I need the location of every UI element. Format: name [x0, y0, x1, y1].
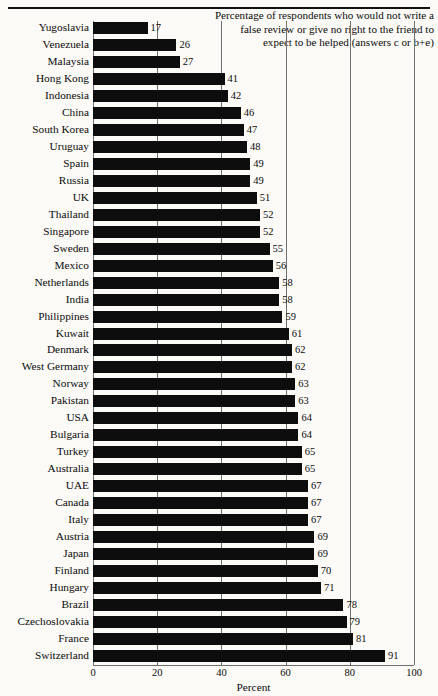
bar: [93, 158, 250, 170]
bar-value-label: 61: [292, 328, 303, 339]
bar-value-label: 67: [311, 514, 322, 525]
bar-value-label: 69: [317, 531, 328, 542]
category-label: Denmark: [47, 344, 89, 355]
bar: [93, 565, 318, 577]
bar: [93, 582, 321, 594]
category-label: Thailand: [49, 209, 89, 220]
x-tick-label-80: 80: [345, 667, 356, 678]
bar-value-label: 51: [260, 192, 271, 203]
bar: [93, 73, 225, 85]
bar: [93, 141, 247, 153]
bar-row: France81: [93, 633, 414, 645]
bar-row: Norway63: [93, 378, 414, 390]
bar-value-label: 67: [311, 498, 322, 509]
bar: [93, 277, 279, 289]
bar: [93, 633, 353, 645]
bar-row: Netherlands58: [93, 277, 414, 289]
bar-value-label: 64: [301, 430, 312, 441]
category-label: Uruguay: [49, 141, 89, 152]
bar-row: Switzerland91: [93, 650, 414, 662]
bar: [93, 446, 302, 458]
category-label: Indonesia: [45, 90, 89, 101]
bar-row: Russia49: [93, 175, 414, 187]
bar-value-label: 58: [282, 277, 293, 288]
bar-value-label: 26: [179, 40, 190, 51]
bar-row: Philippines59: [93, 311, 414, 323]
bar-row: Czechoslovakia79: [93, 616, 414, 628]
bar: [93, 531, 314, 543]
bar: [93, 616, 347, 628]
bar: [93, 463, 302, 475]
bar-value-label: 52: [263, 209, 274, 220]
bar-row: Austria69: [93, 531, 414, 543]
x-axis-ticks: 020406080100: [93, 667, 414, 681]
category-label: Bulgaria: [50, 429, 89, 440]
bar: [93, 650, 385, 662]
bar-row: Denmark62: [93, 344, 414, 356]
bar-value-label: 17: [151, 23, 162, 34]
bar-value-label: 78: [346, 599, 357, 610]
bar: [93, 412, 298, 424]
bar: [93, 361, 292, 373]
category-label: Canada: [55, 497, 89, 508]
x-tick-label-100: 100: [406, 667, 422, 678]
bar-chart-figure: Percentage of respondents who would not …: [0, 0, 438, 696]
bar-row: Thailand52: [93, 209, 414, 221]
bar-row: Bulgaria64: [93, 429, 414, 441]
bar-value-label: 63: [298, 396, 309, 407]
bar-value-label: 81: [356, 633, 367, 644]
category-label: Russia: [59, 175, 89, 186]
bar-value-label: 71: [324, 582, 335, 593]
category-label: West Germany: [22, 361, 89, 372]
bar-value-label: 70: [321, 565, 332, 576]
bar-row: Uruguay48: [93, 141, 414, 153]
bar-row: Mexico56: [93, 260, 414, 272]
bar-value-label: 47: [247, 125, 258, 135]
bar-value-label: 91: [388, 650, 399, 661]
bar-value-label: 56: [276, 260, 287, 271]
bar-row: Japan69: [93, 548, 414, 560]
bar: [93, 22, 148, 34]
category-label: Turkey: [57, 446, 89, 457]
category-label: Brazil: [61, 599, 89, 610]
bar: [93, 344, 292, 356]
bar: [93, 599, 343, 611]
bar: [93, 514, 308, 526]
category-label: France: [58, 632, 89, 643]
bar: [93, 497, 308, 509]
category-label: South Korea: [32, 124, 89, 135]
category-label: Japan: [63, 548, 89, 559]
bar-row: Canada67: [93, 497, 414, 509]
category-label: Malaysia: [48, 56, 89, 67]
bar-value-label: 55: [273, 243, 284, 254]
bar-value-label: 58: [282, 294, 293, 305]
bar: [93, 175, 250, 187]
category-label: Hong Kong: [36, 73, 89, 84]
category-label: Singapore: [43, 226, 89, 237]
category-label: Mexico: [54, 260, 89, 271]
bar: [93, 124, 244, 136]
bar-row: South Korea47: [93, 124, 414, 136]
category-label: Switzerland: [35, 649, 89, 660]
bar-value-label: 48: [250, 142, 261, 153]
category-label: Czechoslovakia: [17, 616, 89, 627]
bar-value-label: 59: [285, 311, 296, 322]
bar-row: Pakistan63: [93, 395, 414, 407]
bar-row: Kuwait61: [93, 328, 414, 340]
x-axis-label: Percent: [93, 681, 414, 693]
category-label: UAE: [66, 480, 89, 491]
bar-row: USA64: [93, 412, 414, 424]
bar-row: Turkey65: [93, 446, 414, 458]
bar: [93, 39, 176, 51]
bar: [93, 328, 289, 340]
bar: [93, 226, 260, 238]
x-tick-label-20: 20: [152, 667, 163, 678]
bar-row: Hungary71: [93, 582, 414, 594]
bar: [93, 209, 260, 221]
bar-value-label: 49: [253, 159, 264, 170]
bar: [93, 395, 295, 407]
bar-row: Malaysia27: [93, 56, 414, 68]
category-label: Italy: [68, 514, 89, 525]
category-label: Philippines: [38, 310, 89, 321]
bar-row: West Germany62: [93, 361, 414, 373]
